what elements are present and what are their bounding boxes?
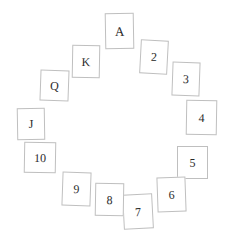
card-rank-label: K xyxy=(82,55,91,67)
card-rank-label: 2 xyxy=(151,51,158,63)
playing-card-9[interactable]: 9 xyxy=(61,172,91,207)
playing-card-5[interactable]: 5 xyxy=(177,146,208,179)
card-rank-label: 10 xyxy=(34,151,46,163)
playing-card-4[interactable]: 4 xyxy=(186,100,218,136)
playing-card-q[interactable]: Q xyxy=(39,70,69,102)
playing-card-6[interactable]: 6 xyxy=(156,177,186,213)
card-rank-label: A xyxy=(115,24,125,37)
playing-card-k[interactable]: K xyxy=(72,45,101,78)
playing-card-7[interactable]: 7 xyxy=(122,193,154,230)
playing-card-2[interactable]: 2 xyxy=(139,39,169,74)
card-rank-label: Q xyxy=(50,79,59,91)
card-rank-label: 9 xyxy=(73,183,79,195)
card-rank-label: 3 xyxy=(183,73,189,85)
playing-card-3[interactable]: 3 xyxy=(171,62,200,97)
playing-card-10[interactable]: 10 xyxy=(24,142,57,174)
card-rank-label: 5 xyxy=(190,157,196,169)
card-rank-label: J xyxy=(29,118,34,130)
playing-card-8[interactable]: 8 xyxy=(95,183,125,217)
playing-card-j[interactable]: J xyxy=(17,108,46,140)
playing-card-a[interactable]: A xyxy=(105,13,135,50)
card-rank-label: 7 xyxy=(135,205,142,217)
card-circle-canvas: A2345678910JQK xyxy=(0,0,228,243)
card-rank-label: 4 xyxy=(198,111,204,123)
card-rank-label: 8 xyxy=(106,193,112,205)
card-rank-label: 6 xyxy=(168,188,174,200)
